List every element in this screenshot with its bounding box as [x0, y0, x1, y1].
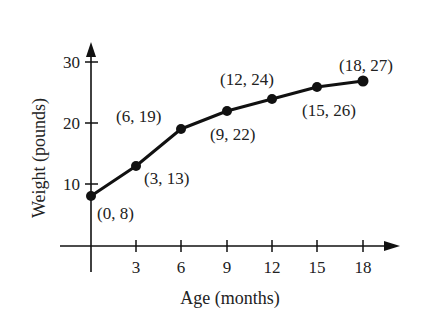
x-tick-label: 15: [309, 258, 326, 277]
chart: 30 20 10 3 6 9 12 15 18 Age (months) Wei…: [0, 0, 438, 323]
data-point: [358, 76, 369, 87]
point-label: (9, 22): [210, 125, 255, 144]
data-point: [267, 94, 277, 104]
y-tick-label: 30: [63, 53, 80, 72]
data-point: [222, 106, 232, 116]
data-point: [176, 124, 186, 134]
point-label: (15, 26): [302, 101, 356, 120]
y-tick-label: 20: [63, 114, 80, 133]
x-tick-label: 12: [264, 258, 281, 277]
x-tick-label: 3: [132, 258, 141, 277]
point-label: (3, 13): [144, 169, 189, 188]
y-tick-label: 10: [63, 175, 80, 194]
x-axis-arrow-icon: [384, 241, 400, 251]
x-tick-label: 18: [355, 258, 372, 277]
x-tick-label: 9: [223, 258, 232, 277]
data-point: [131, 161, 141, 171]
point-label: (12, 24): [220, 70, 274, 89]
x-axis-label: Age (months): [180, 288, 279, 309]
y-axis-arrow-icon: [86, 42, 96, 57]
y-axis-label: Weight (pounds): [29, 98, 50, 218]
point-label: (0, 8): [97, 204, 134, 223]
point-label: (18, 27): [339, 56, 393, 75]
data-point: [312, 82, 322, 92]
point-label: (6, 19): [116, 107, 161, 126]
data-point: [86, 191, 96, 201]
x-tick-label: 6: [177, 258, 186, 277]
